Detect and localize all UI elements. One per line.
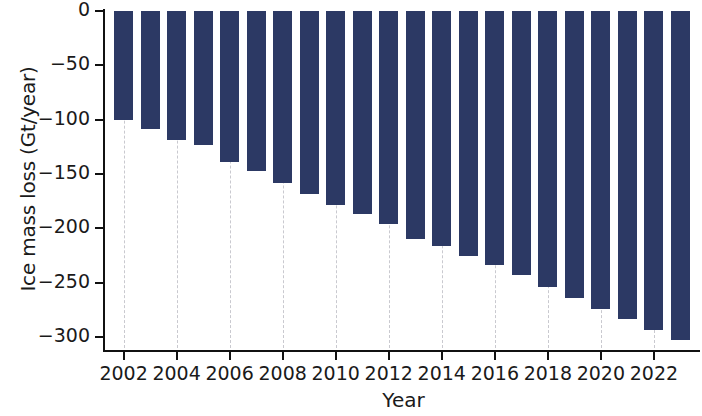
ice-mass-loss-bar-chart: Ice mass loss (Gt/year) Year 0−50−100−15… [0,0,702,416]
x-tick [653,351,655,360]
bar [591,11,610,309]
y-tick-label: −250 [0,270,90,292]
y-tick [95,227,104,229]
bar [141,11,160,129]
bar [353,11,372,214]
y-tick-label: −200 [0,215,90,237]
bar [512,11,531,275]
bar [618,11,637,319]
bar [406,11,425,239]
bar [379,11,398,224]
y-tick [95,64,104,66]
x-tick-label: 2022 [619,362,689,384]
x-tick [388,351,390,360]
y-tick [95,282,104,284]
x-tick [494,351,496,360]
x-tick [600,351,602,360]
x-tick [282,351,284,360]
bar [114,11,133,120]
bar [432,11,451,246]
bar [300,11,319,194]
x-tick [335,351,337,360]
y-tick-label: −100 [0,107,90,129]
bar [671,11,690,340]
x-axis-label: Year [105,388,702,412]
x-tick [229,351,231,360]
y-tick [95,173,104,175]
x-tick [547,351,549,360]
bar [194,11,213,145]
bar [220,11,239,162]
bar [459,11,478,256]
bar [326,11,345,205]
bar [644,11,663,330]
bar [273,11,292,183]
bar [167,11,186,140]
y-tick [95,10,104,12]
x-tick [441,351,443,360]
bar [565,11,584,298]
bar [485,11,504,265]
y-tick-label: −300 [0,324,90,346]
bar [247,11,266,171]
x-axis-spine [103,350,700,352]
y-tick [95,336,104,338]
y-tick-label: −150 [0,161,90,183]
x-tick [176,351,178,360]
y-tick-label: −50 [0,52,90,74]
x-tick [123,351,125,360]
bar [538,11,557,287]
y-tick-label: 0 [0,0,90,20]
y-tick [95,119,104,121]
